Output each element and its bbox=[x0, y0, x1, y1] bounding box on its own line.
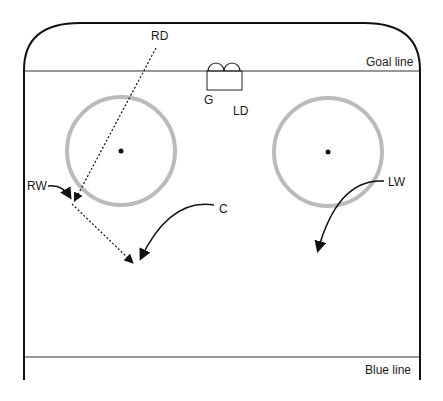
blue-line-label: Blue line bbox=[365, 363, 411, 377]
player-lw: LW bbox=[388, 175, 406, 189]
player-c: C bbox=[219, 202, 228, 216]
lw-skate-path bbox=[318, 181, 384, 250]
faceoff-dot-right bbox=[326, 150, 331, 155]
player-rd: RD bbox=[151, 29, 169, 43]
goal-line-label: Goal line bbox=[366, 55, 414, 69]
c-skate-path bbox=[141, 204, 214, 258]
faceoff-dot-left bbox=[119, 149, 124, 154]
rw-skate-path bbox=[48, 186, 70, 197]
player-g: G bbox=[204, 93, 213, 107]
rw-pass-path bbox=[72, 204, 132, 262]
rink-diagram: Goal line Blue line G LD RD RW C LW bbox=[0, 0, 443, 401]
player-ld: LD bbox=[233, 104, 249, 118]
goal-net bbox=[207, 63, 242, 90]
player-rw: RW bbox=[27, 179, 47, 193]
